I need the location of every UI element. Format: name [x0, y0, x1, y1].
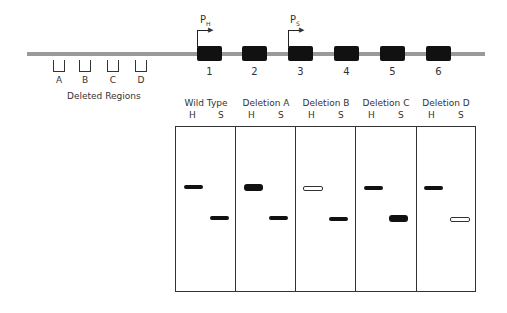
promoter-s-stem [288, 30, 289, 47]
lane-s-label: S [278, 110, 284, 120]
deleted-region-a [53, 60, 65, 72]
gel [175, 126, 476, 292]
lane-h-label: H [368, 110, 375, 120]
deleted-region-d [135, 60, 147, 72]
exon-label: 1 [197, 66, 222, 77]
lane-title-deletion-b: Deletion B [296, 98, 356, 108]
exon-4 [334, 46, 359, 61]
promoter-h-label: PH [200, 14, 211, 27]
band-deletion-d-s [450, 217, 470, 222]
lane-divider [295, 127, 296, 291]
band-deletion-d-h [424, 186, 443, 190]
lane-h-label: H [428, 110, 435, 120]
exon-5 [380, 46, 405, 61]
band-deletion-b-h [303, 186, 323, 191]
lane-title-deletion-a: Deletion A [236, 98, 296, 108]
lane-divider [416, 127, 417, 291]
exon-label: 5 [380, 66, 405, 77]
band-wild-type-s [210, 216, 229, 220]
deleted-region-label: A [53, 75, 65, 85]
lane-s-label: S [338, 110, 344, 120]
lane-h-label: H [248, 110, 255, 120]
lane-divider [355, 127, 356, 291]
deleted-region-label: B [79, 75, 91, 85]
lane-s-label: S [398, 110, 404, 120]
exon-label: 6 [426, 66, 451, 77]
arrow-right-icon: ▶ [299, 27, 304, 34]
exon-1 [197, 46, 222, 61]
deleted-regions-title: Deleted Regions [67, 91, 141, 101]
exon-6 [426, 46, 451, 61]
lane-title-deletion-c: Deletion C [356, 98, 416, 108]
exon-label: 2 [242, 66, 267, 77]
deleted-region-c [107, 60, 119, 72]
exon-label: 4 [334, 66, 359, 77]
lane-s-label: S [458, 110, 464, 120]
exon-3 [288, 46, 313, 61]
deleted-region-b [79, 60, 91, 72]
lane-s-label: S [218, 110, 224, 120]
lane-title-wild-type: Wild Type [176, 98, 236, 108]
lane-title-deletion-d: Deletion D [416, 98, 476, 108]
band-deletion-b-s [329, 217, 348, 221]
lane-divider [235, 127, 236, 291]
deleted-region-label: C [107, 75, 119, 85]
band-deletion-a-s [269, 216, 288, 220]
lane-h-label: H [189, 110, 196, 120]
band-deletion-a-h [244, 184, 263, 191]
band-deletion-c-s [389, 215, 408, 222]
band-deletion-c-h [364, 186, 383, 190]
deleted-region-label: D [135, 75, 147, 85]
arrow-right-icon: ▶ [208, 27, 213, 34]
promoter-s-label: PS [290, 14, 300, 27]
exon-label: 3 [288, 66, 313, 77]
exon-2 [242, 46, 267, 61]
band-wild-type-h [184, 185, 203, 189]
lane-h-label: H [308, 110, 315, 120]
promoter-h-stem [197, 30, 198, 47]
